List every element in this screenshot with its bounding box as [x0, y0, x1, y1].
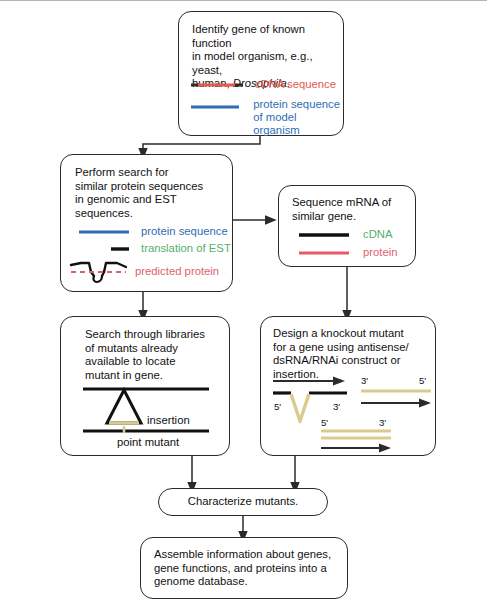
- antisense-label-5prime: 5': [419, 375, 426, 386]
- sequence-mrna-text: Sequence mRNA of similar gene.: [292, 196, 412, 223]
- legend-label-mrna-cdna: cDNA: [363, 228, 393, 241]
- flowchart-diagram: Identify gene of known function in model…: [0, 0, 487, 610]
- legend-row-search-protein-sequence: protein sequence: [79, 225, 228, 238]
- design-knockout-text: Design a knockout mutant for a gene usin…: [273, 327, 433, 381]
- box-design-knockout: Design a knockout mutant for a gene usin…: [260, 316, 436, 456]
- legend-label-predicted-protein: predicted protein: [135, 265, 219, 278]
- box-search-libraries: Search through libraries of mutants alre…: [60, 316, 230, 456]
- legend-row-mrna-protein: protein: [299, 246, 398, 259]
- perform-search-text: Perform search for similar protein seque…: [75, 166, 225, 220]
- legend-label-cdna-sequence: cDNA sequence: [255, 78, 336, 91]
- protein-pink-line-icon: [299, 248, 351, 258]
- assemble-information-text: Assemble information about genes, gene f…: [154, 548, 342, 589]
- legend-row-mrna-cdna: cDNA: [299, 228, 393, 241]
- insertion-label: insertion: [147, 414, 190, 426]
- knockout-deletion-construct-graphic: [269, 375, 355, 423]
- dsrna-label-5prime: 5': [321, 417, 328, 428]
- box-identify-gene: Identify gene of known function in model…: [178, 11, 344, 136]
- characterize-mutants-text: Characterize mutants.: [159, 495, 327, 509]
- antisense-label-3prime: 3': [361, 375, 368, 386]
- knockout-label-5prime-left: 5': [274, 401, 281, 412]
- legend-row-protein-sequence: protein sequence of model organism: [191, 98, 343, 138]
- point-mutant-label: point mutant: [117, 436, 179, 448]
- est-translation-dash-icon: [79, 244, 131, 254]
- knockout-label-3prime-left: 3': [333, 401, 340, 412]
- box-characterize-mutants: Characterize mutants.: [158, 488, 328, 516]
- legend-row-cdna-sequence: cDNA sequence: [191, 78, 336, 91]
- dsrna-label-3prime: 3': [379, 417, 386, 428]
- antisense-construct-graphic: [359, 385, 435, 411]
- search-libraries-text: Search through libraries of mutants alre…: [85, 328, 225, 382]
- protein-sequence-line-icon: [191, 102, 241, 114]
- legend-label-mrna-protein: protein: [363, 246, 398, 259]
- cdna-black-line-icon: [299, 230, 351, 240]
- protein-sequence-line-icon: [79, 227, 131, 237]
- connector-identify-to-search: [143, 136, 260, 154]
- gene-intron-loop-icon: [69, 256, 131, 286]
- legend-label-search-protein-sequence: protein sequence: [141, 225, 228, 238]
- legend-row-translation-est: translation of EST: [79, 242, 231, 255]
- box-perform-search: Perform search for similar protein seque…: [60, 154, 233, 292]
- cdna-sequence-line-icon: [191, 80, 243, 90]
- legend-label-protein-sequence: protein sequence of model organism: [253, 98, 343, 138]
- dsrna-duplex-graphic: [319, 427, 395, 453]
- box-assemble-information: Assemble information about genes, gene f…: [140, 537, 348, 599]
- box-sequence-mrna: Sequence mRNA of similar gene. cDNA prot…: [278, 185, 416, 267]
- legend-label-translation-est: translation of EST: [141, 242, 231, 255]
- legend-row-predicted-protein: predicted protein: [69, 256, 219, 286]
- insertion-point-mutant-graphic: [81, 383, 211, 433]
